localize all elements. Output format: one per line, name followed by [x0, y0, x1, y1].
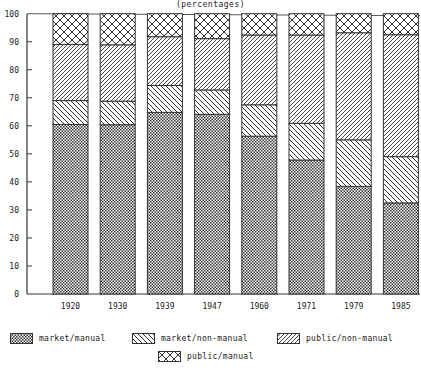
bar-segment-public-non-manual [147, 37, 182, 86]
bar-segment-market-non-manual [147, 85, 182, 112]
bar-segment-public-manual [383, 14, 418, 35]
y-tick-label: 100 [5, 10, 20, 19]
bar-segment-public-manual [53, 14, 88, 45]
x-tick-label: 1960 [250, 302, 269, 311]
bar-segment-market-non-manual [289, 123, 324, 160]
y-tick-label: 10 [9, 262, 19, 271]
bar-segment-market-manual [242, 136, 277, 294]
bar-segment-market-non-manual [383, 157, 418, 203]
legend-item-public-non-manual: public/non-manual [277, 333, 393, 344]
bar-segment-public-manual [100, 14, 135, 45]
legend-item-public-manual: public/manual [158, 351, 254, 362]
y-tick-label: 80 [9, 66, 19, 75]
bar-1930 [100, 14, 135, 294]
bar-segment-public-non-manual [289, 35, 324, 123]
bar-segment-market-manual [195, 114, 230, 294]
bar-segment-public-non-manual [383, 35, 418, 157]
bar-1971 [289, 14, 324, 294]
bar-segment-market-non-manual [195, 90, 230, 114]
bar-segment-market-non-manual [336, 140, 371, 187]
bar-segment-market-manual [53, 124, 88, 294]
x-tick-label: 1947 [202, 302, 221, 311]
legend-label: market/manual [39, 334, 106, 343]
y-tick-label: 50 [9, 150, 19, 159]
bar-segment-public-non-manual [195, 39, 230, 90]
y-tick-label: 20 [9, 234, 19, 243]
x-tick-label: 1939 [155, 302, 174, 311]
backslash-hatch-swatch-icon [132, 333, 155, 344]
stacked-bar-chart: 0102030405060708090100 19201930193919471… [0, 0, 421, 325]
bar-segment-public-manual [147, 14, 182, 37]
bar-1960 [242, 14, 277, 294]
legend-item-market-manual: market/manual [10, 333, 106, 344]
x-tick-label: 1920 [61, 302, 80, 311]
bar-segment-public-non-manual [242, 35, 277, 105]
legend-item-market-non-manual: market/non-manual [132, 333, 248, 344]
fine-crosshatch-swatch-icon [10, 333, 33, 344]
bar-segment-public-manual [242, 14, 277, 35]
y-tick-label: 0 [14, 290, 19, 299]
bar-1939 [147, 14, 182, 294]
x-tick-label: 1979 [344, 302, 363, 311]
legend-label: public/non-manual [306, 334, 393, 343]
bar-segment-market-non-manual [53, 101, 88, 125]
bar-segment-public-manual [195, 14, 230, 39]
bar-segment-market-manual [383, 203, 418, 294]
bar-segment-market-non-manual [242, 105, 277, 136]
bar-1947 [195, 14, 230, 294]
bars: 19201930193919471960197119791985 [53, 14, 418, 311]
bar-1920 [53, 14, 88, 294]
slash-hatch-swatch-icon [277, 333, 300, 344]
bar-1985 [383, 14, 418, 294]
bar-segment-public-non-manual [53, 45, 88, 101]
bar-segment-market-non-manual [100, 101, 135, 125]
bar-segment-market-manual [289, 160, 324, 294]
y-tick-label: 90 [9, 38, 19, 47]
x-tick-label: 1971 [297, 302, 316, 311]
bar-segment-public-non-manual [100, 45, 135, 101]
diamond-crosshatch-swatch-icon [158, 351, 181, 362]
legend: market/manual market/non-manual public/n… [0, 330, 421, 370]
bar-1979 [336, 14, 371, 294]
bar-segment-public-manual [289, 14, 324, 35]
legend-label: public/manual [187, 352, 254, 361]
x-tick-label: 1985 [391, 302, 410, 311]
x-tick-label: 1930 [108, 302, 127, 311]
legend-label: market/non-manual [161, 334, 248, 343]
y-tick-label: 60 [9, 122, 19, 131]
y-tick-label: 40 [9, 178, 19, 187]
bar-segment-market-manual [147, 112, 182, 294]
y-tick-label: 30 [9, 206, 19, 215]
bar-segment-public-non-manual [336, 33, 371, 140]
bar-segment-market-manual [336, 186, 371, 294]
bar-segment-public-manual [336, 14, 371, 33]
bar-segment-market-manual [100, 125, 135, 294]
y-tick-label: 70 [9, 94, 19, 103]
